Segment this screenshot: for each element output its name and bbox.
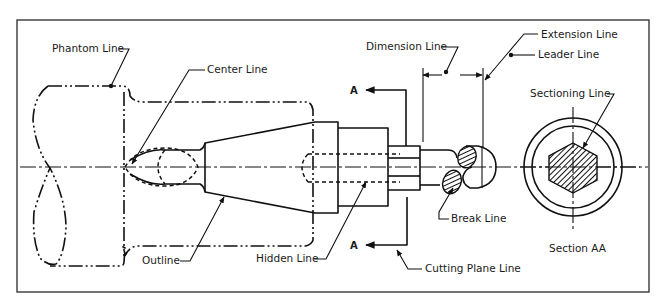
labels: Phantom Line Center Line Dimension Line … bbox=[52, 28, 618, 274]
dimension-lines bbox=[423, 68, 483, 148]
break-line-part bbox=[439, 144, 496, 197]
label-outline: Outline bbox=[142, 254, 180, 266]
section-aa-view bbox=[520, 107, 640, 232]
cutting-plane: A A bbox=[350, 85, 407, 251]
label-section-aa: Section AA bbox=[549, 242, 607, 254]
label-hidden-line: Hidden Line bbox=[256, 252, 318, 264]
label-break-line: Break Line bbox=[451, 212, 506, 224]
label-dimension-line: Dimension Line bbox=[366, 40, 447, 52]
label-leader-line: Leader Line bbox=[538, 48, 599, 60]
label-sectioning-line: Sectioning Line bbox=[530, 87, 610, 99]
label-center-line: Center Line bbox=[207, 63, 268, 75]
cutting-plane-marker-bottom: A bbox=[350, 240, 358, 251]
technical-drawing: A A Phantom Line Center Line Dimension L… bbox=[0, 0, 661, 306]
label-extension-line: Extension Line bbox=[541, 28, 618, 40]
label-cutting-plane-line: Cutting Plane Line bbox=[425, 262, 521, 274]
phantom-part bbox=[33, 86, 313, 266]
cutting-plane-marker-top: A bbox=[350, 85, 358, 96]
label-phantom-line: Phantom Line bbox=[52, 42, 124, 54]
